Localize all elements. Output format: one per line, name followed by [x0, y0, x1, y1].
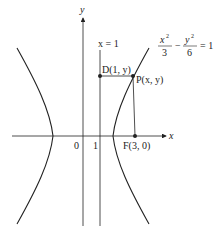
point-P-label: P(x, y): [136, 74, 163, 86]
svg-text:3: 3: [162, 47, 167, 58]
tick-one-label: 1: [93, 140, 98, 151]
point-D-label: D(1, y): [102, 64, 131, 76]
svg-text:−: −: [175, 40, 181, 51]
svg-text:2: 2: [191, 33, 194, 39]
hyperbola-diagram: x y x = 1 0 1 D(1, y) P(x, y) F(3, 0) x …: [0, 0, 220, 230]
point-F-label: F(3, 0): [123, 140, 150, 152]
origin-label: 0: [74, 140, 79, 151]
hyperbola-equation: x 2 3 − y 2 6 = 1: [158, 33, 213, 58]
svg-text:x: x: [159, 34, 165, 45]
svg-text:2: 2: [166, 33, 169, 39]
svg-text:y: y: [184, 34, 190, 45]
segment-PF: [133, 76, 135, 136]
directrix-label: x = 1: [98, 38, 119, 49]
x-axis-label: x: [168, 130, 174, 141]
point-F: [133, 134, 137, 138]
point-P: [131, 74, 135, 78]
svg-text:= 1: = 1: [200, 40, 213, 51]
y-axis-label: y: [79, 4, 85, 15]
svg-text:6: 6: [187, 47, 192, 58]
